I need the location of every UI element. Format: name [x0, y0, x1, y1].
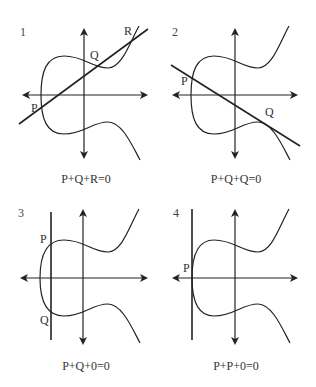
point-label-p: P [181, 75, 188, 87]
point-label-p: P [31, 102, 38, 114]
point-label-p: P [40, 233, 47, 245]
panel-4 [174, 209, 296, 343]
panel-1 [19, 26, 148, 160]
point-label-q: Q [90, 49, 99, 61]
panel-number: 3 [18, 207, 24, 219]
elliptic-curve [40, 209, 140, 343]
panel-number: 2 [172, 26, 178, 38]
caption: P+P+0=0 [213, 360, 259, 372]
caption: P+Q+Q=0 [211, 173, 261, 185]
elliptic-curve [191, 26, 290, 160]
panel-number: 4 [173, 207, 179, 219]
figure-canvas [0, 0, 316, 387]
point-label-p: P [183, 262, 190, 274]
point-label-r: R [124, 25, 132, 37]
panel-number: 1 [20, 26, 26, 38]
elliptic-curve [192, 209, 290, 343]
panel-2 [171, 26, 300, 160]
point-label-q: Q [265, 106, 274, 118]
point-label-q: Q [40, 314, 49, 326]
caption: P+Q+0=0 [62, 360, 110, 372]
caption: P+Q+R=0 [61, 173, 111, 185]
